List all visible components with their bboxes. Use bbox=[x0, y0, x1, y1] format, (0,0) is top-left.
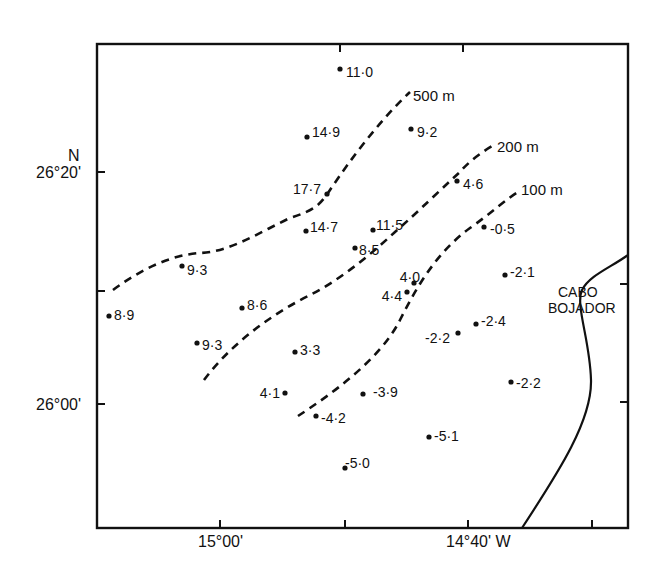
station-dot bbox=[304, 134, 309, 139]
station-dot bbox=[239, 305, 244, 310]
station-dot bbox=[473, 321, 478, 326]
contour-200m bbox=[204, 145, 494, 380]
station-dot bbox=[179, 263, 184, 268]
station-dot bbox=[370, 227, 375, 232]
station-dot bbox=[324, 191, 329, 196]
station-dot bbox=[360, 391, 365, 396]
station-dot bbox=[481, 224, 486, 229]
station-dot bbox=[352, 245, 357, 250]
station-value-label: -5·1 bbox=[434, 428, 459, 444]
station-value-label: 8·5 bbox=[359, 242, 379, 258]
north-indicator: N bbox=[68, 147, 80, 164]
station-value-label: 9·2 bbox=[417, 124, 437, 140]
station-value-label: -2·2 bbox=[516, 375, 541, 391]
station-value-label: 8·9 bbox=[114, 307, 134, 323]
station-dot bbox=[337, 66, 342, 71]
station-value-label: 9·3 bbox=[202, 337, 222, 353]
contour-label-100m: 100 m bbox=[521, 181, 563, 198]
lon-label-15-00: 15°00' bbox=[198, 533, 243, 550]
station-dot bbox=[292, 349, 297, 354]
station-dot bbox=[408, 126, 413, 131]
station-value-label: 4·0 bbox=[400, 269, 420, 285]
station-value-label: 14·9 bbox=[312, 124, 340, 140]
lat-label-26-00: 26°00' bbox=[36, 396, 81, 413]
station-value-label: 4·4 bbox=[382, 288, 402, 304]
contour-label-200m: 200 m bbox=[497, 138, 539, 155]
station-value-label: -0·5 bbox=[490, 221, 515, 237]
station-value-label: 11·5 bbox=[376, 217, 403, 233]
station-dot bbox=[194, 340, 199, 345]
station-value-label: -4·2 bbox=[321, 410, 346, 426]
station-value-label: -3·9 bbox=[373, 384, 398, 400]
station-dot bbox=[508, 379, 513, 384]
station-value-label: 17·7 bbox=[293, 181, 321, 197]
station-dot bbox=[282, 390, 287, 395]
place-label-cabo: CABO bbox=[558, 284, 598, 300]
station-dot bbox=[426, 434, 431, 439]
station-dot bbox=[404, 289, 409, 294]
contour-label-500m: 500 m bbox=[413, 87, 455, 104]
station-value-label: 11·0 bbox=[346, 64, 373, 80]
stations: 11·014·99·217·74·614·711·58·5-0·59·3-2·1… bbox=[106, 64, 541, 471]
station-map: N 26°20' 26°00' 15°00' 14°40' W 500 m 20… bbox=[0, 0, 661, 581]
station-value-label: 9·3 bbox=[187, 262, 207, 278]
station-value-label: 8·6 bbox=[247, 297, 267, 313]
station-dot bbox=[502, 272, 507, 277]
station-value-label: 4·6 bbox=[463, 176, 483, 192]
lon-label-14-40: 14°40' W bbox=[446, 533, 511, 550]
station-value-label: 4·1 bbox=[260, 385, 280, 401]
station-value-label: -2·2 bbox=[425, 330, 450, 346]
contour-500m bbox=[113, 92, 410, 290]
station-value-label: 3·3 bbox=[300, 342, 320, 358]
station-value-label: 14·7 bbox=[310, 219, 338, 235]
lat-label-26-20: 26°20' bbox=[36, 164, 81, 181]
station-dot bbox=[106, 313, 111, 318]
station-value-label: -5·0 bbox=[345, 455, 370, 471]
station-value-label: -2·1 bbox=[510, 264, 535, 280]
station-dot bbox=[455, 330, 460, 335]
station-dot bbox=[303, 228, 308, 233]
place-label-bojador: BOJADOR bbox=[548, 300, 616, 316]
station-dot bbox=[313, 413, 318, 418]
station-dot bbox=[454, 178, 459, 183]
station-value-label: -2·4 bbox=[481, 313, 506, 329]
